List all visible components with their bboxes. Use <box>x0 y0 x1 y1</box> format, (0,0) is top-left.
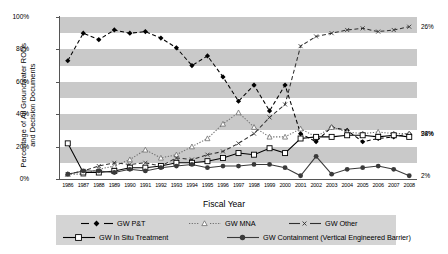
y-axis-title: Percentage of All Groundwater RODs and D… <box>19 15 37 195</box>
legend-label-gw-pt: GW P&T <box>117 219 145 228</box>
data-point <box>236 110 241 115</box>
data-point <box>81 169 86 174</box>
data-point <box>376 134 381 139</box>
data-point <box>96 37 101 42</box>
data-point <box>252 125 257 130</box>
plot-area <box>60 17 417 179</box>
legend-swatch-gw-pt <box>80 218 114 229</box>
data-point <box>220 155 225 160</box>
legend-item-gw-pt[interactable]: GW P&T <box>80 216 145 230</box>
data-point <box>189 144 194 149</box>
data-point <box>267 108 272 113</box>
x-axis-line <box>59 179 417 180</box>
legend-swatch-gw-other <box>288 218 322 229</box>
data-point <box>329 172 334 177</box>
data-point <box>345 133 350 138</box>
data-point <box>143 29 148 34</box>
data-point <box>127 31 132 36</box>
data-point <box>252 162 257 167</box>
legend-row-1: GW P&T GW MNA GW Other <box>56 216 396 230</box>
data-point <box>190 162 195 167</box>
y-axis-tick: 80% <box>0 45 29 52</box>
data-point <box>65 58 70 63</box>
series-end-label: 26% <box>421 23 434 30</box>
data-point <box>391 133 396 138</box>
data-point <box>174 164 179 169</box>
chart-legend: GW P&T GW MNA GW Other GW In Situ Tre <box>56 215 396 245</box>
data-point <box>205 53 210 58</box>
data-point <box>205 165 210 170</box>
data-point <box>205 159 210 164</box>
legend-label-gw-containment: GW Containment (Vertical Engineered Barr… <box>263 233 411 242</box>
data-point <box>314 154 319 159</box>
data-point <box>158 165 163 170</box>
data-point <box>407 173 412 178</box>
data-point <box>127 157 132 162</box>
data-point <box>65 141 70 146</box>
data-point <box>298 173 303 178</box>
data-point <box>267 146 272 151</box>
data-point <box>221 164 226 169</box>
legend-item-gw-other[interactable]: GW Other <box>288 216 357 230</box>
data-point <box>252 132 256 136</box>
data-point <box>143 169 148 174</box>
legend-item-gw-in-situ[interactable]: GW In Situ Treatment <box>62 230 168 244</box>
data-point <box>298 131 303 136</box>
series-end-label: 2% <box>421 172 430 179</box>
data-point <box>252 152 257 157</box>
chart-figure: Percentage of All Groundwater RODs and D… <box>0 0 448 254</box>
data-point <box>360 165 365 170</box>
y-axis-tick: 20% <box>0 143 29 150</box>
data-point <box>112 170 117 175</box>
data-point <box>96 169 101 174</box>
y-axis-tick: 60% <box>0 78 29 85</box>
legend-item-gw-mna[interactable]: GW MNA <box>188 216 256 230</box>
legend-swatch-gw-containment <box>226 232 260 243</box>
legend-label-gw-mna: GW MNA <box>225 219 256 228</box>
y-axis-tick: 100% <box>0 13 29 20</box>
legend-item-gw-containment[interactable]: GW Containment (Vertical Engineered Barr… <box>226 230 411 244</box>
legend-label-gw-in-situ: GW In Situ Treatment <box>99 233 168 242</box>
series-line <box>68 30 409 142</box>
data-point <box>158 35 163 40</box>
data-point <box>314 134 319 139</box>
data-point <box>283 165 288 170</box>
legend-label-gw-other: GW Other <box>325 219 357 228</box>
legend-swatch-gw-in-situ <box>62 232 96 243</box>
legend-row-2: GW In Situ Treatment GW Containment (Ver… <box>56 230 396 244</box>
data-point <box>251 82 256 87</box>
data-point <box>236 164 241 169</box>
x-axis-tick: 2008 <box>398 182 420 188</box>
series-lines <box>60 17 417 179</box>
data-point <box>267 162 272 167</box>
series-end-label: 94% <box>421 130 434 137</box>
data-point <box>407 134 412 139</box>
data-point <box>298 136 303 141</box>
y-axis-title-line-2: and Decision Documents <box>28 15 37 195</box>
data-point <box>360 139 365 144</box>
data-point <box>376 164 381 169</box>
data-point <box>345 167 350 172</box>
data-point <box>282 82 287 87</box>
data-point <box>236 151 241 156</box>
data-point <box>112 27 117 32</box>
data-point <box>391 167 396 172</box>
y-axis-tick: 40% <box>0 110 29 117</box>
data-point <box>81 31 86 36</box>
y-axis-tick: 0% <box>0 175 29 182</box>
data-point <box>329 134 334 139</box>
data-point <box>283 151 288 156</box>
legend-swatch-gw-mna <box>188 218 222 229</box>
data-point <box>65 172 70 177</box>
series-gw-p-t <box>65 27 412 144</box>
x-axis-title: Fiscal Year <box>0 199 448 209</box>
data-point <box>143 147 148 152</box>
series-gw-containment-vertical-engineered-barrier <box>65 154 411 178</box>
data-point <box>283 134 288 139</box>
data-point <box>127 167 132 172</box>
x-axis-tick-labels: 1986198719881989199019911992199319941995… <box>60 182 417 194</box>
data-point <box>360 133 365 138</box>
series-gw-in-situ-treatment <box>65 133 411 175</box>
data-point <box>237 141 241 145</box>
data-point <box>268 115 272 119</box>
